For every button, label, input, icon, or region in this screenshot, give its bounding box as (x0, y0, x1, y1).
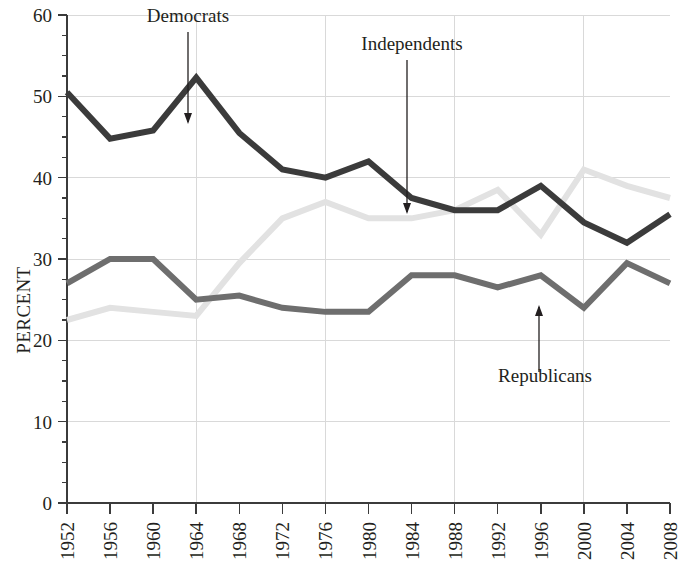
y-tick-label: 20 (33, 330, 52, 351)
x-tick-label: 1956 (100, 522, 121, 560)
y-tick-labels-group: 0102030405060 (33, 5, 52, 514)
party-identification-line-chart: 0102030405060 19521956196019641968197219… (0, 0, 684, 576)
x-tick-label: 1968 (229, 522, 250, 560)
y-tick-label: 30 (33, 249, 52, 270)
x-tick-label: 1984 (402, 522, 423, 561)
annotation-label-republicans: Republicans (498, 365, 592, 386)
y-tick-label: 60 (33, 5, 52, 26)
y-axis-title: PERCENT (13, 266, 34, 353)
x-tick-label: 1992 (488, 522, 509, 560)
x-tick-label: 1964 (186, 522, 207, 561)
x-tick-label: 2004 (617, 522, 638, 561)
x-tick-label: 2000 (574, 522, 595, 560)
x-tick-labels-group: 1952195619601964196819721976198019841988… (57, 522, 681, 561)
annotation-label-independents: Independents (361, 33, 462, 54)
annotation-arrowhead-independents (403, 203, 411, 214)
chart-canvas: 0102030405060 19521956196019641968197219… (0, 0, 684, 576)
data-series-group (67, 78, 670, 320)
y-tick-label: 10 (33, 412, 52, 433)
series-line-republicans (67, 259, 670, 312)
x-tick-label: 1976 (315, 522, 336, 560)
y-tick-label: 50 (33, 86, 52, 107)
x-tick-label: 1980 (359, 522, 380, 560)
axes-group (58, 15, 670, 514)
series-line-independents (67, 170, 670, 320)
annotation-arrowhead-democrats (184, 113, 192, 124)
x-tick-label: 1952 (57, 522, 78, 560)
x-tick-label: 2008 (660, 522, 681, 560)
x-tick-label: 1960 (143, 522, 164, 560)
y-tick-label: 0 (43, 493, 53, 514)
annotation-label-democrats: Democrats (147, 5, 229, 26)
annotation-arrowhead-republicans (535, 305, 543, 316)
x-tick-label: 1996 (531, 522, 552, 560)
x-tick-label: 1972 (272, 522, 293, 560)
x-tick-label: 1988 (445, 522, 466, 560)
y-tick-label: 40 (33, 168, 52, 189)
